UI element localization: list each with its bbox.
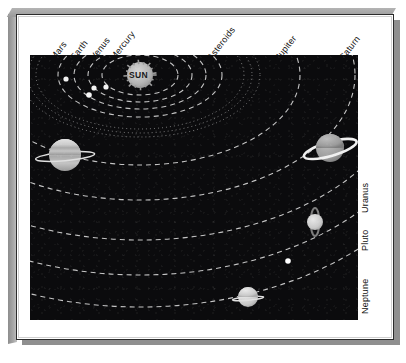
orbit-uranus bbox=[30, 55, 358, 240]
planet-mars bbox=[63, 76, 68, 81]
earth-body bbox=[91, 85, 96, 90]
sun-corona-ray bbox=[152, 73, 157, 74]
planet-venus bbox=[103, 84, 108, 89]
planet-earth bbox=[91, 85, 96, 90]
saturn-front-cap bbox=[316, 134, 344, 148]
mars-body bbox=[63, 76, 68, 81]
solar-system-figure: MarsEarthVenusMercuryAsteroidsJupiterSat… bbox=[0, 0, 406, 363]
planet-jupiter bbox=[35, 139, 95, 171]
sun-corona-ray bbox=[151, 79, 153, 80]
planets-group bbox=[35, 76, 358, 307]
sun-corona-ray bbox=[126, 71, 128, 72]
sun-corona-ray bbox=[150, 68, 152, 69]
sun-corona-ray bbox=[145, 85, 146, 87]
space-panel: SUN bbox=[30, 55, 358, 320]
sun-corona-ray bbox=[133, 63, 134, 65]
orbit-saturn bbox=[30, 55, 355, 200]
jupiter-front-cap bbox=[49, 139, 81, 155]
right-label-neptune: Neptune bbox=[360, 279, 370, 314]
mercury-body bbox=[86, 92, 92, 98]
sun-corona-ray bbox=[127, 80, 129, 81]
sun-corona-ray bbox=[127, 65, 131, 68]
right-label-uranus: Uranus bbox=[360, 183, 370, 213]
pluto-body bbox=[285, 258, 291, 264]
sun-corona-ray bbox=[129, 83, 132, 86]
planet-uranus bbox=[307, 208, 323, 236]
uranus-body bbox=[307, 214, 323, 230]
right-label-pluto: Pluto bbox=[360, 229, 370, 251]
planet-mercury bbox=[86, 92, 92, 98]
orbit-neptune bbox=[30, 55, 358, 307]
venus-body bbox=[103, 84, 108, 89]
planet-saturn bbox=[302, 134, 358, 163]
sun-corona-ray bbox=[149, 83, 152, 86]
orbits-group bbox=[30, 55, 358, 307]
sun-corona-ray bbox=[147, 63, 150, 66]
orbit-canvas bbox=[30, 55, 358, 320]
neptune-front-cap bbox=[238, 287, 258, 297]
sun-corona-ray bbox=[143, 62, 144, 64]
sun-corona-ray bbox=[135, 85, 136, 87]
planet-pluto bbox=[285, 258, 291, 264]
